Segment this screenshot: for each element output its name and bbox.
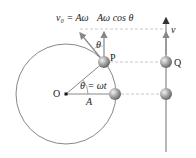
velocity-q-label: v: [171, 25, 175, 35]
point-q-label: Q: [174, 58, 181, 68]
ball-q-start: [160, 88, 172, 100]
angle-p-label: θ: [96, 40, 101, 50]
ball-q: [160, 56, 172, 68]
origin-point: [65, 93, 68, 96]
ball-p: [98, 56, 110, 68]
vertical-component-label: Aω cos θ: [97, 13, 133, 23]
origin-label: O: [53, 89, 60, 99]
angle-label: θ = ωt: [80, 81, 107, 91]
diagram-canvas: [0, 0, 196, 158]
radius-label: A: [86, 97, 92, 107]
point-p-label: P: [110, 53, 116, 63]
ball-start: [109, 88, 121, 100]
tangential-velocity-label: v₀ = Aω: [56, 13, 89, 23]
